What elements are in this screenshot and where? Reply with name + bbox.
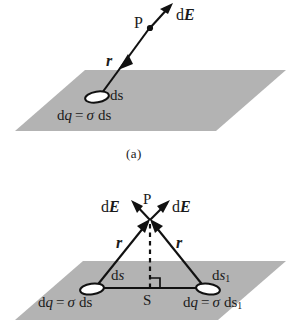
charge-eq-rb-eq: = [198,294,212,310]
r-label-right-b: r [176,235,182,251]
dE-label-left-b-d: d [101,198,109,215]
charge-eq-rb-sub: 1 [237,300,242,311]
dE-label-a: dE [176,7,195,23]
charge-eq-a-s: s [105,107,111,123]
panel-caption-a: (a) [126,147,142,160]
r-arrowhead-right-b [150,219,163,233]
charge-eq-a-q: q [65,107,73,123]
charge-eq-rb-d2: d [220,294,232,310]
ds1-label-right-b-d: d [212,267,220,283]
dE-label-a-d: d [176,6,184,23]
ds-label-a: ds [110,88,123,103]
dE-arrowhead-a [160,3,173,14]
dE-label-a-E: E [184,6,195,23]
charge-equation-left-b: dq=σds [38,295,92,310]
foot-s-label-b: S [143,293,151,308]
charge-equation-right-b: dq=σds1 [183,295,242,311]
charge-eq-rb-sigma: σ [212,294,219,310]
dE-label-right-b: dE [172,199,191,215]
ds1-label-right-b-sub: 1 [225,273,230,284]
dE-label-left-b: dE [101,199,120,215]
charge-eq-lb-s: s [86,294,92,310]
ds-label-a-s: s [118,87,124,103]
ds-label-a-d: d [110,87,118,103]
charge-eq-lb-d1: d [38,294,46,310]
charge-eq-a-d2: d [94,107,106,123]
point-p-label-b: P [143,192,151,207]
electric-field-plane-figure [0,0,288,328]
r-label-left-b: r [116,235,122,251]
charge-eq-lb-d2: d [75,294,87,310]
ds-label-left-b-d: d [111,267,119,283]
r-label-a: r [106,53,112,69]
dE-label-left-b-E: E [109,198,120,215]
charge-eq-a-eq: = [72,107,86,123]
charge-eq-rb-q: q [191,294,199,310]
charge-eq-rb-d1: d [183,294,191,310]
ds1-label-right-b: ds1 [212,268,230,284]
charge-eq-a-d1: d [57,107,65,123]
charge-equation-a: dq=σds [57,108,111,123]
charge-eq-lb-eq: = [53,294,67,310]
ds-label-left-b: ds [111,268,124,283]
charge-eq-lb-sigma: σ [67,294,74,310]
dE-label-right-b-d: d [172,198,180,215]
point-p-label-a: P [134,15,143,31]
charge-eq-lb-q: q [46,294,54,310]
charge-eq-a-sigma: σ [86,107,93,123]
r-arrowhead-left-b [137,219,150,233]
dE-label-right-b-E: E [180,198,191,215]
panel-a [15,3,286,131]
ds-label-left-b-s: s [119,267,125,283]
charged-plane-a [15,70,286,131]
r-arrowhead-a [118,54,133,70]
